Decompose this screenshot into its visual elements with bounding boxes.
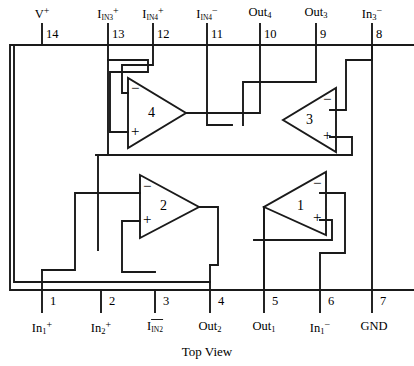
pin-number-6: 6 xyxy=(328,294,334,309)
pin-label-5: Out1 xyxy=(253,320,276,333)
pin-label-14-text: V+ xyxy=(35,7,50,21)
internal-wiring xyxy=(14,45,372,290)
opamp-2-minus-sign: − xyxy=(143,179,151,194)
opamp-4-minus-sign: − xyxy=(131,81,139,96)
opamp-4-plus-sign: + xyxy=(131,124,139,139)
pin-label-14: V+ xyxy=(35,6,50,21)
pin-number-10: 10 xyxy=(264,27,277,42)
pin-label-1: In1+ xyxy=(32,320,52,336)
pinout-diagram: V+ IIN3+ IIN4+ IIN4− Out4 Out3 In3− 14 1… xyxy=(0,0,414,366)
pin-number-14: 14 xyxy=(46,27,59,42)
pin-number-2: 2 xyxy=(109,294,115,309)
pin-label-12: IIN4+ xyxy=(142,6,163,21)
pin-ticks-bottom xyxy=(42,290,372,312)
pin-number-13: 13 xyxy=(112,27,125,42)
pin-number-9: 9 xyxy=(320,27,326,42)
pin-label-4: Out2 xyxy=(199,320,222,333)
opamp-3-minus-sign: − xyxy=(323,92,331,107)
opamp-3-label: 3 xyxy=(306,113,313,127)
pin-number-4: 4 xyxy=(218,294,224,309)
pin-label-7: GND xyxy=(360,320,387,333)
schematic-canvas xyxy=(0,0,414,366)
package-outline xyxy=(10,45,414,290)
pin-number-7: 7 xyxy=(380,294,386,309)
opamp-4-label: 4 xyxy=(148,106,155,120)
pin-label-13: IIN3+ xyxy=(97,6,118,21)
opamp-1-label: 1 xyxy=(297,199,304,213)
pin-number-12: 12 xyxy=(157,27,170,42)
pin-number-8: 8 xyxy=(376,27,382,42)
opamp-1-plus-sign: + xyxy=(313,210,321,225)
opamp-3-plus-sign: + xyxy=(323,128,331,143)
pin-number-1: 1 xyxy=(50,294,56,309)
pin-label-6: In1− xyxy=(310,320,330,336)
opamp-2-plus-sign: + xyxy=(143,212,151,227)
pin-number-11: 11 xyxy=(211,27,223,42)
pin-label-11: IIN4− xyxy=(196,6,217,21)
opamp-2-label: 2 xyxy=(160,199,167,213)
diagram-caption: Top View xyxy=(182,344,232,360)
pin-label-10: Out4 xyxy=(249,6,272,19)
pin-label-2: In2+ xyxy=(91,320,111,336)
opamp-1-minus-sign: − xyxy=(313,176,321,191)
pin-label-8: In3− xyxy=(362,6,382,22)
pin-number-3: 3 xyxy=(163,294,169,309)
pin-number-5: 5 xyxy=(272,294,278,309)
pin-label-3: IIN2 xyxy=(147,320,163,333)
pin-label-9: Out3 xyxy=(305,6,328,19)
